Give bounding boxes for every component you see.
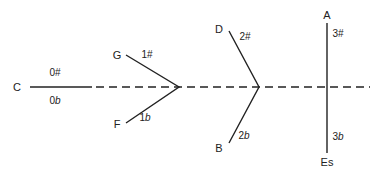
g-acc-sym: # xyxy=(147,49,153,60)
a-accidental: 3# xyxy=(332,29,343,39)
d-accidental: 2# xyxy=(239,32,250,42)
key-label-d: D xyxy=(215,24,223,35)
es-accidental: 3b xyxy=(332,132,343,142)
circle-of-keys-diagram xyxy=(0,0,370,172)
b-acc-sym: b xyxy=(244,130,250,141)
g-accidental: 1# xyxy=(141,50,152,60)
g-f-wedge xyxy=(126,55,179,123)
key-label-es: Es xyxy=(321,157,334,168)
es-acc-sym: b xyxy=(338,131,344,142)
key-label-b: B xyxy=(215,143,222,154)
key-label-a: A xyxy=(323,10,330,21)
key-label-c: C xyxy=(13,82,21,93)
c-lower-accidental: 0b xyxy=(49,96,60,106)
key-label-f: F xyxy=(114,119,121,130)
key-label-g: G xyxy=(113,50,122,61)
b-accidental: 2b xyxy=(238,131,249,141)
c-lower-sym: b xyxy=(55,95,61,106)
a-acc-sym: # xyxy=(338,28,344,39)
d-acc-sym: # xyxy=(245,31,251,42)
c-upper-accidental: 0# xyxy=(49,68,60,78)
f-acc-sym: b xyxy=(145,112,151,123)
f-accidental: 1b xyxy=(139,113,150,123)
c-upper-sym: # xyxy=(55,67,61,78)
